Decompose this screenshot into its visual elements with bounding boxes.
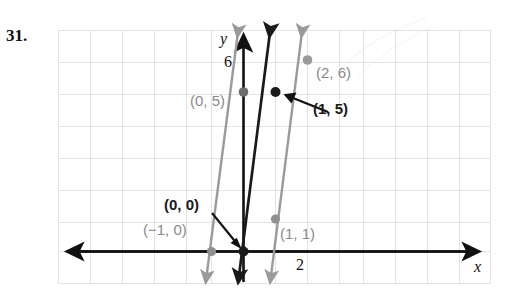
point-label-1-5: (1, 5) <box>313 101 348 116</box>
point-label-0-0: (0, 0) <box>164 197 199 212</box>
figure-root: 31. <box>0 0 513 304</box>
x-axis-label: x <box>474 258 481 276</box>
marker-1-1 <box>271 214 280 223</box>
point-label-0-5: (0, 5) <box>190 93 225 108</box>
y-tick-6: 6 <box>224 53 232 71</box>
point-label-neg1-0: (−1, 0) <box>143 222 187 237</box>
marker-1-5 <box>271 87 281 97</box>
marker-0-5 <box>239 87 249 97</box>
marker-2-6 <box>303 55 313 65</box>
point-label-2-6: (2, 6) <box>316 65 351 80</box>
marker-neg1-0 <box>207 247 216 256</box>
coordinate-plane <box>0 0 513 304</box>
x-tick-2: 2 <box>296 256 304 274</box>
y-axis-label: y <box>220 30 227 48</box>
point-label-1-1: (1, 1) <box>280 226 315 241</box>
